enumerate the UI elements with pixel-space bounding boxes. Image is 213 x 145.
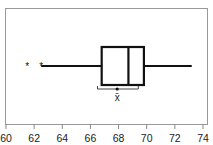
x-tick-label: 68 [113, 132, 125, 144]
outlier-marker: * [25, 61, 29, 72]
x-tick-label: 74 [197, 132, 209, 144]
x-tick-label: 62 [28, 132, 40, 144]
outlier-marker: * [39, 61, 43, 72]
x-tick-label: 70 [141, 132, 153, 144]
boxplot-chart: 6062646668707274 **x̄ [0, 0, 213, 145]
mean-label: x̄ [115, 92, 120, 103]
x-tick-label: 60 [0, 132, 12, 144]
x-tick-label: 72 [169, 132, 181, 144]
x-tick-label: 64 [56, 132, 68, 144]
x-axis: 6062646668707274 [0, 125, 209, 145]
x-tick-label: 66 [85, 132, 97, 144]
mean-point [116, 87, 119, 90]
